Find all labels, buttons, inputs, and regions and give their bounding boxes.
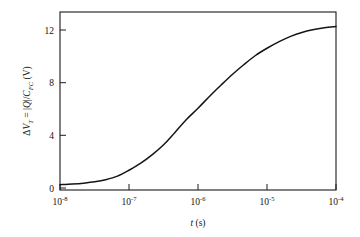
plot-frame	[60, 12, 336, 190]
x-tick-label-1e-5: 10-5	[260, 195, 276, 207]
y-tick-label-4: 4	[49, 131, 54, 141]
data-curve-threshold-voltage-shift	[60, 27, 336, 185]
figure-container: 0 4 8 12 10-8 10-7 10-6 10-5	[0, 0, 360, 237]
x-tick-label-1e-7: 10-7	[122, 195, 138, 207]
x-tick-label-1e-6: 10-6	[191, 195, 207, 207]
y-axis-title: ΔVT = |Q|/CFC (V)	[22, 66, 34, 135]
y-tick-label-8: 8	[49, 78, 54, 88]
y-tick-label-12: 12	[45, 26, 55, 36]
x-axis-tick-labels: 10-8 10-7 10-6 10-5 10-4	[53, 195, 345, 207]
x-tick-label-1e-4: 10-4	[329, 195, 345, 207]
y-axis-tick-labels: 0 4 8 12	[45, 26, 55, 194]
x-tick-label-1e-8: 10-8	[53, 195, 69, 207]
y-axis-ticks	[60, 30, 66, 188]
chart-svg: 0 4 8 12 10-8 10-7 10-6 10-5	[0, 0, 360, 237]
x-axis-ticks	[60, 184, 336, 190]
y-tick-label-0: 0	[49, 184, 54, 194]
x-axis-title: t (s)	[190, 218, 205, 229]
